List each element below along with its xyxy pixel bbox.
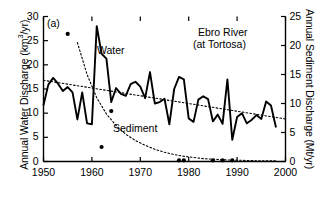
sediment-data-point <box>99 145 103 149</box>
y-axis-right-tick-label: 10 <box>290 97 312 109</box>
sediment-data-point <box>211 158 215 162</box>
chart-title-line1: Ebro River <box>198 26 248 38</box>
sediment-data-point <box>177 158 181 162</box>
x-axis-tick-label: 1960 <box>72 166 112 178</box>
y-axis-right-title: Annual Sediment Discharge (Mt/yr) <box>304 9 316 169</box>
x-axis-tick-label: 1970 <box>120 166 160 178</box>
series-label-sediment: Sediment <box>113 122 157 134</box>
y-axis-right-tick-label: 20 <box>290 39 312 51</box>
sediment-data-point <box>230 158 234 162</box>
y-axis-left-tick-label: 30 <box>17 10 39 22</box>
y-axis-left-tick-label: 15 <box>17 82 39 94</box>
x-axis-tick-label: 1980 <box>169 166 209 178</box>
y-axis-left-tick-label: 10 <box>17 106 39 118</box>
sediment-data-point <box>220 158 224 162</box>
chart-figure: Annual Water Discharge (km3/yr) Annual S… <box>0 0 327 201</box>
y-axis-left-title-suffix: /yr) <box>18 20 30 35</box>
sediment-data-point <box>109 109 113 113</box>
sediment-data-point <box>66 32 70 36</box>
x-axis-tick-label: 1990 <box>217 166 257 178</box>
series-label-water: Water <box>97 44 125 56</box>
sediment-data-point <box>182 158 186 162</box>
y-axis-left-tick-label: 25 <box>17 34 39 46</box>
water-trend-dotted-line <box>44 80 286 119</box>
y-axis-right-tick-label: 15 <box>290 68 312 80</box>
y-axis-right-tick-label: 5 <box>290 126 312 138</box>
y-axis-right-tick-label: 25 <box>290 10 312 22</box>
y-axis-left-tick-label: 20 <box>17 58 39 70</box>
panel-label: (a) <box>47 17 60 29</box>
chart-title-line2: (at Tortosa) <box>193 38 246 50</box>
x-axis-tick-label: 2000 <box>266 166 306 178</box>
x-axis-tick-label: 1950 <box>24 166 64 178</box>
y-axis-left-tick-label: 5 <box>17 130 39 142</box>
